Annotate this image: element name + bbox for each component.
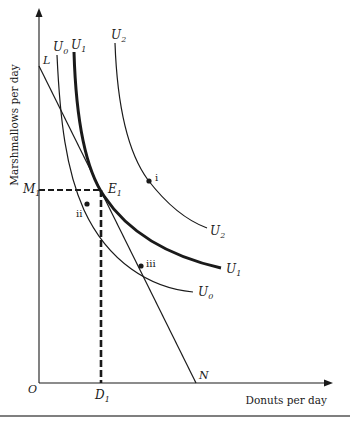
x-axis [39, 380, 333, 387]
curve-label-u2-top: U2 [111, 28, 126, 44]
origin-label: O [28, 383, 37, 396]
budget-line-label-n: N [198, 369, 209, 382]
x-marker-label: D1 [94, 388, 110, 404]
budget-line-label-l: L [42, 54, 50, 67]
budget-line [39, 66, 196, 383]
equilibrium-label: E1 [107, 182, 122, 198]
point-ii-label: ii [76, 208, 82, 219]
curve-label-u0-top: U0 [53, 40, 68, 56]
point-i-label: i [155, 172, 158, 183]
curve-label-u0-end: U0 [198, 285, 213, 301]
curve-label-u2-end: U2 [210, 224, 225, 240]
curve-label-u1-end: U1 [226, 262, 241, 278]
y-axis-title: Marshmallows per day [8, 64, 20, 185]
x-axis-arrow-icon [324, 380, 333, 387]
y-marker-label: M1 [22, 182, 40, 198]
point-i [146, 178, 151, 183]
y-axis-arrow-icon [36, 8, 43, 17]
point-ii [84, 201, 89, 206]
indifference-curve-u1 [74, 52, 221, 268]
indifference-curve-u2 [115, 43, 207, 228]
point-iii-label: iii [146, 258, 156, 269]
curve-label-u1-top: U1 [71, 38, 86, 54]
x-axis-title: Donuts per day [246, 394, 327, 406]
point-iii [138, 263, 143, 268]
indifference-curve-diagram: Marshmallows per day Donuts per day O L … [0, 0, 350, 421]
